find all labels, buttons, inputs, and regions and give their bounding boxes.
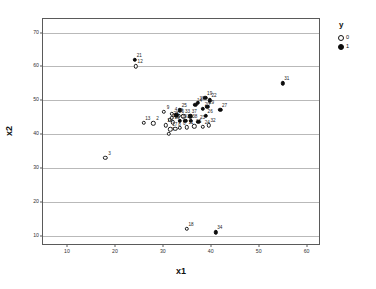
data-point xyxy=(134,64,138,68)
legend-item-label: 1 xyxy=(346,44,349,50)
data-point xyxy=(185,227,189,231)
open-circle-icon xyxy=(338,35,344,41)
data-point xyxy=(103,156,107,160)
y-tick-mark xyxy=(40,66,43,67)
data-point xyxy=(162,110,166,114)
data-point-label: 13 xyxy=(145,116,150,121)
y-tick-label: 10 xyxy=(33,233,39,238)
x-tick-label: 50 xyxy=(256,249,262,254)
y-tick-mark xyxy=(40,100,43,101)
data-point xyxy=(178,119,182,123)
data-point-label: 18 xyxy=(188,223,193,228)
y-tick-mark xyxy=(40,201,43,202)
data-point-label: 29 xyxy=(209,101,214,106)
data-point-label: 21 xyxy=(137,53,142,58)
filled-circle-icon xyxy=(338,44,344,50)
gridline xyxy=(43,202,319,203)
gridline xyxy=(43,236,319,237)
data-point xyxy=(201,125,205,129)
data-point xyxy=(204,113,208,117)
y-tick-label: 40 xyxy=(33,132,39,137)
legend-entries: 01 xyxy=(338,35,374,50)
gridline xyxy=(43,33,319,34)
data-point-label: 38 xyxy=(192,114,197,119)
legend-item-label: 0 xyxy=(346,35,349,41)
x-axis-title: x1 xyxy=(42,266,320,276)
data-point xyxy=(213,230,217,234)
x-tick-mark xyxy=(306,244,307,247)
data-point-label: 2 xyxy=(156,117,159,122)
y-tick-label: 50 xyxy=(33,98,39,103)
x-tick-label: 10 xyxy=(64,249,70,254)
legend: y 01 xyxy=(338,20,374,53)
data-point xyxy=(218,108,222,112)
y-tick-label: 60 xyxy=(33,64,39,69)
data-point xyxy=(196,101,200,105)
x-tick-mark xyxy=(210,244,211,247)
y-tick-label: 30 xyxy=(33,165,39,170)
gridline xyxy=(43,66,319,67)
data-point-label: 39 xyxy=(182,115,187,120)
data-point-label: 8 xyxy=(178,122,181,127)
gridline xyxy=(43,100,319,101)
data-point-label: 27 xyxy=(222,104,227,109)
data-point xyxy=(133,57,137,61)
data-point-label: 9 xyxy=(167,106,170,111)
x-tick-label: 20 xyxy=(112,249,118,254)
data-point-label: 3 xyxy=(108,152,111,157)
data-point-label: 12 xyxy=(138,60,143,65)
y-axis-title: x2 xyxy=(4,126,14,136)
x-tick-mark xyxy=(258,244,259,247)
data-point-label: 32 xyxy=(210,119,215,124)
data-point xyxy=(185,125,189,129)
data-point-label: 22 xyxy=(211,94,216,99)
legend-title: y xyxy=(338,20,374,29)
x-tick-mark xyxy=(114,244,115,247)
data-point xyxy=(141,120,145,124)
y-tick-mark xyxy=(40,168,43,169)
data-point xyxy=(192,124,196,128)
legend-item[interactable]: 0 xyxy=(338,35,374,41)
gridline xyxy=(43,134,319,135)
y-tick-mark xyxy=(40,32,43,33)
data-point-label: 26 xyxy=(208,109,213,114)
y-tick-label: 70 xyxy=(33,30,39,35)
x-tick-label: 40 xyxy=(208,249,214,254)
data-point xyxy=(151,121,155,125)
legend-item[interactable]: 1 xyxy=(338,44,374,50)
scatter-plot-figure: 10203040506070 102030405060 123456789101… xyxy=(0,0,376,289)
gridline xyxy=(43,168,319,169)
plot-area: 10203040506070 102030405060 123456789101… xyxy=(42,18,320,245)
y-tick-mark xyxy=(40,134,43,135)
y-tick-label: 20 xyxy=(33,199,39,204)
y-tick-mark xyxy=(40,235,43,236)
data-point-label: 30 xyxy=(199,97,204,102)
data-point xyxy=(207,123,211,127)
data-point-label: 34 xyxy=(217,226,222,231)
data-point-label: 31 xyxy=(284,77,289,82)
data-point xyxy=(164,123,168,127)
data-point-label: 17 xyxy=(172,123,177,128)
x-tick-label: 30 xyxy=(160,249,166,254)
x-tick-mark xyxy=(66,244,67,247)
data-point xyxy=(280,81,284,85)
x-tick-label: 60 xyxy=(304,249,310,254)
x-tick-mark xyxy=(162,244,163,247)
